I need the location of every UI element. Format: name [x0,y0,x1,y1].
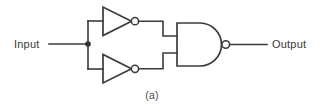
inverter-top-bubble-icon [131,18,138,25]
figure-caption: (a) [145,89,158,101]
logic-circuit-diagram: Input Output (a) [0,0,321,110]
inverter-top-body [103,7,132,36]
nand-output-bubble-icon [222,41,230,49]
inverter-bottom-bubble-icon [131,65,138,72]
bottom-inverter-output-wire [139,53,177,69]
inverter-bottom-body [103,55,132,84]
output-label: Output [272,38,306,50]
input-label: Input [14,38,39,50]
top-inverter-output-wire [139,21,177,36]
circuit-schematic: Input Output (a) [0,0,321,110]
nand-gate-body [177,23,222,66]
